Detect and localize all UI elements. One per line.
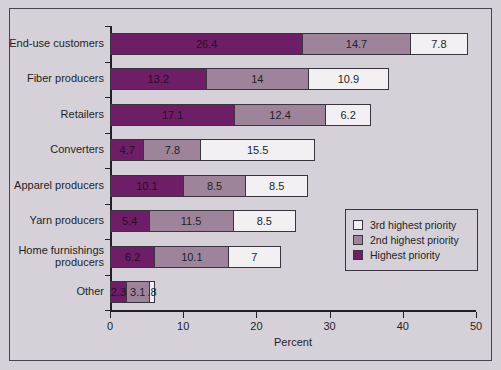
bar-segment: 12.4 xyxy=(235,104,326,126)
bar-segment: 10.1 xyxy=(155,246,229,268)
legend-label-highest-priority: Highest priority xyxy=(370,249,440,261)
bar-row: 5.411.58.5 xyxy=(110,210,296,232)
bar-segment-value: 7 xyxy=(251,251,257,263)
bar-segment-value: 10.1 xyxy=(181,251,202,263)
y-axis-category-label: End-use customers xyxy=(4,37,104,49)
legend-item-highest: Highest priority xyxy=(353,249,470,261)
x-axis-tick-label: 30 xyxy=(323,320,335,332)
x-axis-tick xyxy=(110,312,111,318)
bar-segment-value: 7.8 xyxy=(165,144,180,156)
bar-segment: 14 xyxy=(207,68,309,90)
y-axis-category-label: Home furnishings producers xyxy=(4,244,104,268)
bar-segment-value: 7.8 xyxy=(431,38,446,50)
legend-label-2nd-highest-priority: 2nd highest priority xyxy=(370,234,459,246)
bar-segment: 7 xyxy=(229,246,280,268)
x-axis-tick xyxy=(403,312,404,318)
bar-segment: 2.3 xyxy=(110,281,127,303)
y-axis-category-label: Yarn producers xyxy=(4,214,104,226)
bar-segment-value: 8.5 xyxy=(207,180,222,192)
y-axis-tick xyxy=(105,62,111,63)
x-axis-tick-label: 10 xyxy=(177,320,189,332)
bar-segment-value: 10.9 xyxy=(338,73,359,85)
bar-segment: 14.7 xyxy=(303,33,411,55)
bar-segment: .8 xyxy=(150,281,156,303)
bar-segment: 4.7 xyxy=(110,139,144,161)
legend-swatch-3rd-highest-priority xyxy=(353,220,363,230)
bar-segment: 6.2 xyxy=(110,246,155,268)
bar-segment-value: 17.1 xyxy=(162,109,183,121)
bar-row: 10.18.58.5 xyxy=(110,175,308,197)
bar-segment: 7.8 xyxy=(144,139,201,161)
legend-swatch-2nd-highest-priority xyxy=(353,235,363,245)
bar-segment-value: 11.5 xyxy=(181,215,202,227)
bar-segment: 17.1 xyxy=(110,104,235,126)
bar-segment-value: 6.2 xyxy=(125,251,140,263)
bar-segment: 8.5 xyxy=(184,175,246,197)
bar-segment-value: 14.7 xyxy=(346,38,367,50)
bar-segment: 13.2 xyxy=(110,68,207,90)
x-axis-tick-label: 50 xyxy=(470,320,482,332)
y-axis-category-label: Fiber producers xyxy=(4,72,104,84)
x-axis-tick xyxy=(330,312,331,318)
x-axis-title: Percent xyxy=(110,336,476,348)
bar-row: 17.112.46.2 xyxy=(110,104,371,126)
y-axis-tick xyxy=(105,204,111,205)
y-axis-tick xyxy=(105,239,111,240)
legend-swatch-highest-priority xyxy=(353,250,363,260)
bar-segment-value: .8 xyxy=(147,286,156,298)
bar-segment-value: 3.1 xyxy=(130,286,145,298)
x-axis-tick xyxy=(183,312,184,318)
bar-segment: 7.8 xyxy=(411,33,468,55)
bar-segment-value: 13.2 xyxy=(148,73,169,85)
y-axis-tick xyxy=(105,310,111,311)
legend-item-3rd: 3rd highest priority xyxy=(353,219,470,231)
bar-segment: 6.2 xyxy=(326,104,371,126)
x-axis-tick-label: 40 xyxy=(397,320,409,332)
y-axis-tick xyxy=(105,168,111,169)
bar-row: 2.33.1.8 xyxy=(110,281,155,303)
x-axis-tick-label: 20 xyxy=(250,320,262,332)
bar-segment-value: 8.5 xyxy=(257,215,272,227)
bar-segment-value: 26.4 xyxy=(196,38,217,50)
y-axis-category-label: Apparel producers xyxy=(4,179,104,191)
bar-row: 13.21410.9 xyxy=(110,68,389,90)
chart-container: 26.414.77.813.21410.917.112.46.24.77.815… xyxy=(0,0,501,370)
bar-segment-value: 4.7 xyxy=(120,144,135,156)
bar-segment-value: 10.1 xyxy=(136,180,157,192)
bar-segment: 15.5 xyxy=(201,139,314,161)
bar-segment-value: 8.5 xyxy=(269,180,284,192)
bar-segment-value: 5.4 xyxy=(122,215,137,227)
y-axis-category-label: Retailers xyxy=(4,108,104,120)
y-axis-tick xyxy=(105,97,111,98)
bar-segment: 8.5 xyxy=(234,210,296,232)
bar-segment: 10.1 xyxy=(110,175,184,197)
bar-segment-value: 12.4 xyxy=(269,109,290,121)
bar-segment: 5.4 xyxy=(110,210,150,232)
bar-segment: 11.5 xyxy=(150,210,234,232)
bar-segment-value: 14 xyxy=(251,73,263,85)
legend-label-3rd-highest-priority: 3rd highest priority xyxy=(370,219,456,231)
y-axis-category-label: Other xyxy=(4,285,104,297)
bar-row: 6.210.17 xyxy=(110,246,281,268)
chart-legend: 3rd highest priority 2nd highest priorit… xyxy=(345,209,478,271)
bar-segment-value: 2.3 xyxy=(111,286,126,298)
y-axis-category-label: Converters xyxy=(4,143,104,155)
y-axis-tick xyxy=(105,133,111,134)
x-axis-tick xyxy=(256,312,257,318)
bar-segment-value: 6.2 xyxy=(340,109,355,121)
bar-segment: 3.1 xyxy=(127,281,150,303)
y-axis-tick xyxy=(105,26,111,27)
bar-segment: 10.9 xyxy=(309,68,389,90)
bar-row: 26.414.77.8 xyxy=(110,33,468,55)
bar-segment: 26.4 xyxy=(110,33,303,55)
x-axis-tick-label: 0 xyxy=(107,320,113,332)
x-axis-tick xyxy=(476,312,477,318)
legend-item-2nd: 2nd highest priority xyxy=(353,234,470,246)
bar-row: 4.77.815.5 xyxy=(110,139,315,161)
bar-segment: 8.5 xyxy=(246,175,308,197)
y-axis-tick xyxy=(105,275,111,276)
bar-segment-value: 15.5 xyxy=(247,144,268,156)
